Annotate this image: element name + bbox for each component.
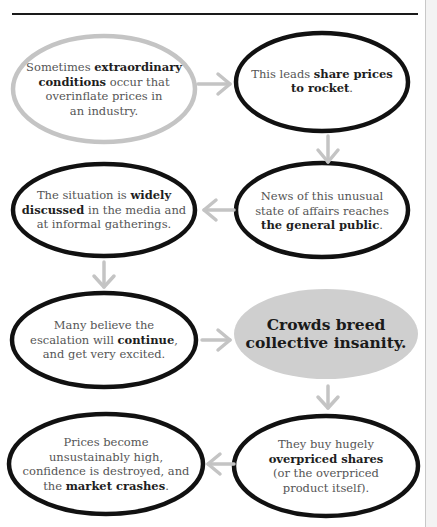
node-3-general-public: News of this unusual state of affairs re… (244, 186, 400, 236)
node-6-crowds-breed-insanity: Crowds breed collective insanity. (240, 312, 412, 356)
node-6-text: Crowds breed collective insanity. (245, 316, 406, 352)
node-7-text: They buy hugely overpriced shares (or th… (269, 437, 384, 495)
node-3-text: News of this unusual state of affairs re… (255, 189, 389, 233)
arrow-right-icon (202, 330, 230, 350)
node-4-text: The situation is widely discussed in the… (22, 188, 186, 232)
node-1-text: Sometimes extraordinary conditions occur… (26, 60, 182, 118)
arrow-right-icon (198, 74, 230, 94)
node-2-share-prices-rocket: This leads share prices to rocket. (244, 56, 400, 106)
arrow-left-icon (204, 200, 234, 220)
arrow-down-icon (94, 262, 114, 287)
node-4-widely-discussed: The situation is widely discussed in the… (20, 185, 188, 235)
node-5-escalation-continue: Many believe the escalation will continu… (20, 315, 188, 365)
node-7-overpriced-shares: They buy hugely overpriced shares (or th… (246, 434, 406, 498)
arrow-down-icon (318, 386, 338, 408)
node-1-extraordinary-conditions: Sometimes extraordinary conditions occur… (22, 50, 186, 128)
arrow-down-icon (318, 136, 338, 162)
node-2-text: This leads share prices to rocket. (251, 67, 393, 96)
node-5-text: Many believe the escalation will continu… (30, 318, 178, 362)
node-8-market-crashes: Prices become unsustainably high, confid… (18, 432, 194, 496)
arrow-left-icon (208, 454, 234, 474)
node-8-text: Prices become unsustainably high, confid… (23, 435, 190, 493)
